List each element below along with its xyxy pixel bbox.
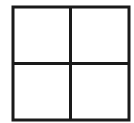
two-by-two-grid: [0, 0, 134, 123]
diagram-canvas: [0, 0, 134, 123]
